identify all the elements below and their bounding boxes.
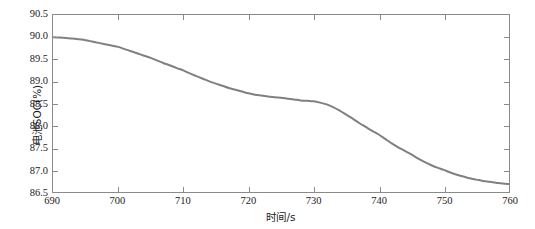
x-tick-label: 710	[175, 196, 191, 207]
y-tick-label: 88.0	[30, 121, 48, 132]
x-tick-label: 740	[371, 196, 387, 207]
y-tick-mark	[53, 59, 58, 60]
y-tick-label: 89.5	[30, 54, 48, 65]
x-tick-mark	[314, 15, 315, 20]
x-tick-mark	[445, 15, 446, 20]
y-tick-label: 89.0	[30, 76, 48, 87]
y-axis-tick-labels: 86.587.087.588.088.589.089.590.090.5	[0, 14, 48, 193]
y-tick-mark	[504, 37, 509, 38]
y-tick-label: 88.5	[30, 98, 48, 109]
y-tick-mark	[53, 104, 58, 105]
x-tick-mark	[249, 15, 250, 20]
x-axis-tick-labels: 690700710720730740750760	[52, 196, 510, 210]
y-tick-mark	[504, 82, 509, 83]
x-tick-mark	[118, 15, 119, 20]
x-tick-mark	[183, 187, 184, 192]
x-tick-mark	[249, 187, 250, 192]
y-tick-mark	[504, 149, 509, 150]
x-tick-label: 700	[110, 196, 126, 207]
soc-curve-path	[53, 37, 509, 184]
y-tick-mark	[53, 126, 58, 127]
soc-curve	[53, 15, 509, 192]
x-tick-mark	[380, 15, 381, 20]
y-tick-mark	[504, 59, 509, 60]
y-tick-label: 90.5	[30, 9, 48, 20]
y-tick-mark	[53, 171, 58, 172]
y-tick-label: 87.0	[30, 165, 48, 176]
x-tick-label: 760	[502, 196, 518, 207]
y-tick-mark	[504, 104, 509, 105]
x-tick-label: 690	[44, 196, 60, 207]
x-tick-label: 730	[306, 196, 322, 207]
y-tick-mark	[53, 37, 58, 38]
y-tick-mark	[53, 149, 58, 150]
y-tick-mark	[504, 171, 509, 172]
x-axis-label: 时间/s	[52, 209, 510, 224]
y-tick-label: 90.0	[30, 31, 48, 42]
chart-figure: 电池SOC(%) 86.587.087.588.088.589.089.590.…	[0, 0, 535, 229]
y-tick-mark	[53, 82, 58, 83]
plot-area	[52, 14, 510, 193]
x-tick-mark	[183, 15, 184, 20]
y-tick-label: 87.5	[30, 143, 48, 154]
x-tick-label: 750	[437, 196, 453, 207]
y-tick-mark	[504, 126, 509, 127]
x-tick-mark	[380, 187, 381, 192]
x-tick-label: 720	[240, 196, 256, 207]
x-tick-mark	[314, 187, 315, 192]
x-tick-mark	[445, 187, 446, 192]
x-tick-mark	[118, 187, 119, 192]
